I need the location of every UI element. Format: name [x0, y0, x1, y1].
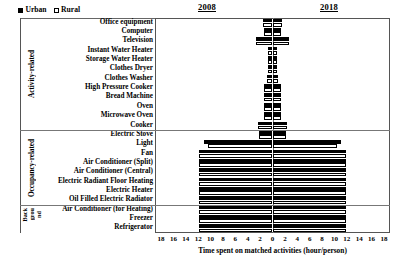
x-tick-label: 8	[221, 235, 225, 243]
bar-2008-urban	[199, 178, 273, 182]
row-label: Air Conditioner (Central)	[74, 168, 153, 175]
bar-2018-rural	[273, 32, 282, 36]
bar-2018-rural	[273, 116, 281, 120]
row-label: Light	[136, 140, 153, 147]
row-label: Instant Water Heater	[87, 47, 153, 54]
bar-2018-rural	[273, 60, 278, 64]
bar-2008-rural	[263, 23, 272, 27]
category-label-activity-related: Activity-related	[21, 18, 41, 130]
bar-2008-urban	[264, 103, 272, 107]
bar-2018-rural	[273, 191, 347, 195]
x-tick-label: 14	[356, 235, 363, 243]
row-label: Storage Water Heater	[86, 56, 153, 63]
bar-2018-urban	[273, 140, 341, 144]
row-label: Cooker	[130, 122, 153, 129]
row-label: Air Conditioner (for Heating)	[62, 206, 153, 213]
bar-2008-urban	[256, 37, 272, 41]
bar-2008-rural	[199, 201, 273, 205]
x-axis-title: Time spent on matched activities (hour/p…	[155, 246, 390, 255]
legend-swatch-urban-icon	[18, 8, 23, 13]
bar-2008-rural	[264, 32, 273, 36]
bar-2018-urban	[273, 84, 281, 88]
bar-2008-urban	[199, 150, 273, 154]
bar-2008-rural	[264, 88, 272, 92]
category-label-line: Back	[21, 208, 28, 221]
x-axis-ticks: 18161412108642024681012141618	[155, 233, 390, 245]
bar-2008-urban	[264, 112, 272, 116]
legend-entry-urban: Urban	[18, 6, 47, 14]
x-tick-label: 16	[368, 235, 375, 243]
bar-2018-rural	[273, 70, 278, 74]
bar-2018-urban	[273, 150, 347, 154]
row-label: Air Conditioner (Split)	[83, 159, 153, 166]
legend-label: Urban	[26, 6, 47, 14]
x-tick-label: 16	[170, 235, 177, 243]
year-header-left: 2008	[198, 2, 216, 12]
x-tick-label: 18	[158, 235, 165, 243]
bar-2018-urban	[273, 37, 289, 41]
bar-2008-rural	[259, 135, 272, 139]
bar-2018-urban	[273, 103, 281, 107]
bar-2008-urban	[258, 122, 273, 126]
year-header-right: 2018	[320, 2, 338, 12]
bar-2018-urban	[273, 56, 278, 60]
bar-2018-urban	[273, 196, 347, 200]
legend-swatch-rural-icon	[54, 8, 59, 13]
bar-2008-rural	[199, 173, 273, 177]
bar-2008-rural	[208, 144, 272, 148]
label-column: Office equipmentComputerTelevisionInstan…	[20, 18, 155, 233]
bar-2018-rural	[273, 79, 279, 83]
bar-2008-urban	[259, 131, 272, 135]
legend-label: Rural	[61, 6, 80, 14]
bar-2018-rural	[273, 126, 288, 130]
bar-2018-rural	[273, 144, 337, 148]
bar-2018-urban	[273, 168, 347, 172]
row-label: Microwave Oven	[101, 112, 153, 119]
bar-2008-urban	[204, 140, 272, 144]
bar-2018-urban	[273, 131, 286, 135]
x-tick-label: 6	[234, 235, 238, 243]
chart-root: UrbanRural 2008 2018 Office equipmentCom…	[0, 0, 402, 269]
bar-2008-rural	[199, 219, 273, 223]
x-tick-label: 10	[331, 235, 338, 243]
bar-2008-urban	[264, 84, 272, 88]
bar-2008-urban	[199, 206, 273, 210]
bar-2018-rural	[273, 135, 286, 139]
bar-2018-urban	[273, 93, 281, 97]
bar-2018-urban	[273, 215, 347, 219]
legend: UrbanRural	[18, 4, 80, 16]
bar-2018-urban	[273, 206, 347, 210]
row-label-list: Office equipmentComputerTelevisionInstan…	[41, 18, 155, 233]
row-label: Computer	[121, 28, 153, 35]
category-label-text: Activity-related	[27, 50, 36, 98]
bar-2018-urban	[273, 65, 278, 69]
bar-2018-rural	[273, 219, 347, 223]
plot-area	[155, 18, 390, 233]
bar-2008-rural	[264, 116, 272, 120]
row-label: Fan	[141, 150, 153, 157]
category-label-line: grou	[28, 208, 35, 220]
bar-2008-rural	[199, 163, 273, 167]
bar-2018-rural	[273, 201, 347, 205]
bar-2018-rural	[273, 51, 278, 55]
bar-2008-rural	[199, 154, 273, 158]
category-label-line: nd	[35, 211, 42, 218]
bar-2018-urban	[273, 19, 282, 23]
bar-2018-rural	[273, 229, 347, 233]
category-label-occupancy-related: Occupancy-related	[21, 130, 41, 205]
bar-2008-rural	[199, 210, 273, 214]
row-label: Oven	[137, 103, 153, 110]
row-label: High Pressure Cooker	[85, 84, 153, 91]
x-tick-label: 18	[381, 235, 388, 243]
bar-2008-rural	[199, 182, 273, 186]
bar-2018-rural	[273, 98, 281, 102]
bar-2008-rural	[264, 98, 272, 102]
row-label: Clothes Dryer	[110, 65, 153, 72]
bar-2008-rural	[264, 107, 272, 111]
row-label: Clothes Washer	[105, 75, 153, 82]
bar-2018-rural	[273, 88, 281, 92]
x-tick-label: 10	[207, 235, 214, 243]
bar-2008-urban	[263, 19, 272, 23]
bar-2018-rural	[273, 173, 347, 177]
bar-2018-rural	[273, 42, 289, 46]
